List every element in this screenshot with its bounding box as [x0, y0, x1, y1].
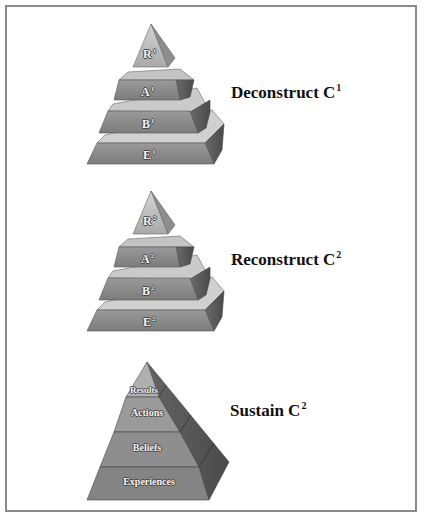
- tier-label-experiences: Experiences: [104, 476, 194, 488]
- tier-label-e2: E2: [143, 312, 156, 329]
- tier-label-e1: E1: [143, 145, 156, 162]
- pyramid-diagram: [0, 0, 426, 521]
- tier-label-results: Results: [126, 384, 162, 396]
- tier-label-r1: R1: [143, 44, 156, 61]
- caption-reconstruct: Reconstruct C2: [231, 249, 341, 270]
- tier-label-beliefs: Beliefs: [114, 442, 180, 454]
- tier-label-a1: A1: [141, 82, 154, 99]
- tier-label-b2: B2: [142, 281, 155, 298]
- caption-sustain: Sustain C2: [230, 400, 306, 421]
- caption-deconstruct: Deconstruct C1: [231, 82, 341, 103]
- tier-label-a2: A2: [141, 249, 154, 266]
- tier-label-b1: B1: [142, 114, 155, 131]
- tier-label-actions: Actions: [118, 407, 176, 419]
- tier-label-r2: R2: [143, 211, 156, 228]
